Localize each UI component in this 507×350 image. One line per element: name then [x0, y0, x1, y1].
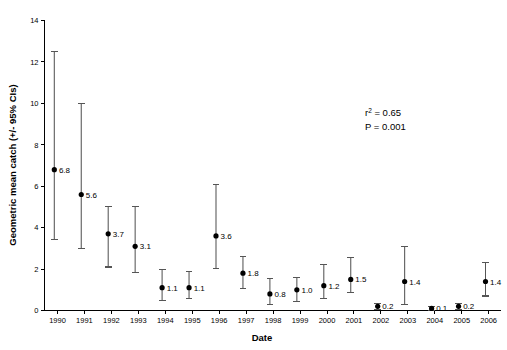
figure-container: 02468101214 1990199119921993199419951996… [0, 0, 507, 350]
data-point-group: 6.8 [51, 52, 71, 239]
x-axis-tick-label: 1991 [76, 316, 93, 325]
data-point-group: 1.0 [293, 277, 313, 301]
data-point-value-label: 3.6 [221, 232, 233, 241]
data-point-marker [375, 304, 380, 309]
x-axis-tick-label: 1995 [184, 316, 201, 325]
data-point-group: 1.1 [159, 269, 179, 300]
data-point-group: 5.6 [78, 103, 98, 248]
data-point-group: 1.8 [240, 257, 260, 289]
y-axis-tick-label: 8 [34, 141, 38, 150]
data-point-marker [321, 283, 326, 288]
data-point-marker [429, 306, 434, 311]
y-axis-tick-label: 4 [34, 223, 38, 232]
data-point-group: 1.5 [347, 258, 367, 293]
data-point-marker [348, 277, 353, 282]
data-point-value-label: 0.2 [382, 302, 394, 311]
x-axis-tick-label: 1998 [265, 316, 282, 325]
data-point-marker [186, 285, 191, 290]
y-axis: 02468101214 [30, 16, 44, 315]
data-point-value-label: 0.2 [463, 302, 475, 311]
x-axis-tick-label: 1992 [103, 316, 120, 325]
data-point-group: 0.8 [267, 278, 287, 304]
data-point-value-label: 1.1 [167, 284, 179, 293]
data-point-value-label: 0.8 [275, 290, 287, 299]
scatter-chart: 02468101214 1990199119921993199419951996… [0, 0, 507, 350]
data-point-value-label: 1.0 [301, 286, 313, 295]
data-point-value-label: 1.8 [248, 269, 260, 278]
x-axis-tick-label: 1996 [211, 316, 228, 325]
x-axis-title: Date [252, 332, 273, 343]
data-point-value-label: 3.1 [140, 242, 152, 251]
data-point-value-label: 1.2 [328, 282, 340, 291]
data-point-value-label: 1.4 [490, 278, 502, 287]
data-point-marker [106, 231, 111, 236]
data-point-marker [240, 271, 245, 276]
data-point-group: 1.4 [401, 246, 421, 304]
data-series-geometric-mean-catch: 6.85.63.73.11.11.13.61.80.81.01.21.50.21… [51, 52, 502, 314]
data-point-value-label: 6.8 [59, 166, 71, 175]
data-point-group: 3.6 [213, 184, 233, 268]
data-point-value-label: 5.6 [86, 191, 98, 200]
data-point-marker [483, 279, 488, 284]
data-point-group: 1.2 [320, 265, 340, 298]
data-point-marker [402, 279, 407, 284]
x-axis-tick-label: 1994 [157, 316, 174, 325]
data-point-group: 3.7 [105, 207, 125, 267]
x-axis-tick-label: 1997 [238, 316, 255, 325]
y-axis-tick-label: 10 [30, 99, 38, 108]
x-axis-tick-label: 1990 [49, 316, 66, 325]
x-axis-tick-label: 2000 [319, 316, 336, 325]
annotation-r-squared-value: = 0.65 [372, 107, 401, 118]
data-point-marker [160, 285, 165, 290]
data-point-group: 0.1 [428, 304, 448, 313]
x-axis-tick-label: 2001 [346, 316, 363, 325]
x-axis-tick-label: 2005 [453, 316, 470, 325]
data-point-marker [294, 287, 299, 292]
annotation-r-squared: r2 = 0.65 [365, 107, 401, 119]
x-axis-tick-label: 2006 [480, 316, 497, 325]
y-axis-tick-label: 14 [30, 16, 38, 25]
data-point-marker [133, 244, 138, 249]
y-axis-tick-label: 12 [30, 58, 38, 67]
y-axis-title: Geometric mean catch (+/- 95% CIs) [7, 84, 18, 245]
data-point-marker [267, 291, 272, 296]
data-point-value-label: 1.1 [194, 284, 206, 293]
y-axis-tick-label: 2 [34, 265, 38, 274]
annotation-p-value: P = 0.001 [365, 121, 406, 132]
data-point-marker [79, 192, 84, 197]
x-axis-tick-label: 2003 [400, 316, 417, 325]
data-point-value-label: 1.5 [355, 275, 367, 284]
data-point-group: 3.1 [132, 207, 152, 272]
data-point-group: 1.1 [186, 271, 206, 298]
y-axis-tick-label: 0 [34, 306, 38, 315]
y-axis-tick-label: 6 [34, 182, 38, 191]
data-point-value-label: 3.7 [113, 230, 125, 239]
x-axis-tick-label: 2002 [373, 316, 390, 325]
data-point-value-label: 1.4 [409, 278, 421, 287]
data-point-value-label: 0.1 [436, 304, 448, 313]
x-axis: 1990199119921993199419951996199719981999… [45, 311, 501, 326]
data-point-group: 1.4 [482, 263, 502, 296]
data-point-marker [213, 233, 218, 238]
data-point-marker [52, 167, 57, 172]
x-axis-tick-label: 2004 [426, 316, 443, 325]
data-point-marker [456, 304, 461, 309]
x-axis-tick-label: 1993 [130, 316, 147, 325]
x-axis-tick-label: 1999 [292, 316, 309, 325]
